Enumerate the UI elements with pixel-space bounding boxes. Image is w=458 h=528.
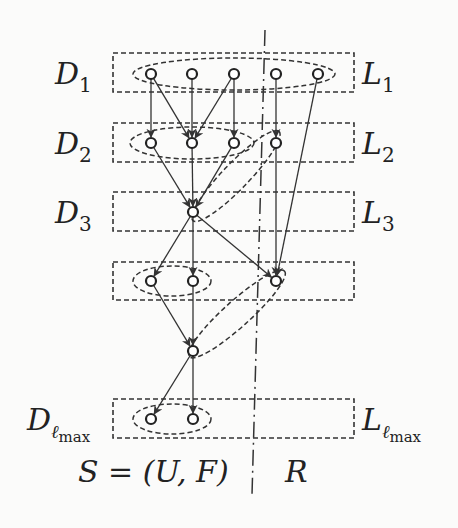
node-b3 xyxy=(229,138,239,148)
node-a1 xyxy=(146,69,156,79)
node-b1 xyxy=(146,138,156,148)
group-ellipse-3 xyxy=(133,266,211,296)
directed-edges xyxy=(151,78,317,414)
node-e1 xyxy=(188,346,198,356)
node-b2 xyxy=(187,138,197,148)
edge-d1-e1 xyxy=(154,285,190,346)
bottom-labels: S = (U, F) R xyxy=(78,454,308,489)
node-a3 xyxy=(229,69,239,79)
level-label-l-max: Lℓmax xyxy=(361,402,422,446)
edge-b2-c1 xyxy=(192,148,193,206)
edge-a5-d3 xyxy=(277,79,317,275)
layered-graph-diagram: D1L1D2L2D3L3DℓmaxLℓmax S = (U, F) R xyxy=(0,0,458,528)
edge-b1-c1 xyxy=(154,147,190,207)
group-ellipses xyxy=(130,58,335,434)
group-ellipse-5 xyxy=(133,404,211,434)
node-a2 xyxy=(187,69,197,79)
level-label-l-2: L2 xyxy=(361,126,395,167)
level-label-d-3: D3 xyxy=(54,195,92,236)
node-c1 xyxy=(188,207,198,217)
s-equals-uf-label: S = (U, F) xyxy=(78,454,229,489)
level-label-d-2: D2 xyxy=(54,126,92,167)
level-label-l-3: L3 xyxy=(361,195,395,236)
node-d1 xyxy=(146,276,156,286)
level-labels: D1L1D2L2D3L3DℓmaxLℓmax xyxy=(26,56,422,446)
level-label-d-max: Dℓmax xyxy=(26,402,91,446)
node-f1 xyxy=(146,414,156,424)
node-d2 xyxy=(188,276,198,286)
level-label-d-1: D1 xyxy=(54,56,92,97)
level-box-3 xyxy=(113,192,354,231)
node-a4 xyxy=(271,69,281,79)
edge-b3-c1 xyxy=(196,147,231,207)
node-a5 xyxy=(313,69,323,79)
node-f2 xyxy=(188,414,198,424)
node-b4 xyxy=(271,138,281,148)
level-label-l-1: L1 xyxy=(361,56,395,97)
edge-c1-d3 xyxy=(197,215,272,277)
node-d3 xyxy=(271,276,281,286)
r-label: R xyxy=(284,454,308,489)
